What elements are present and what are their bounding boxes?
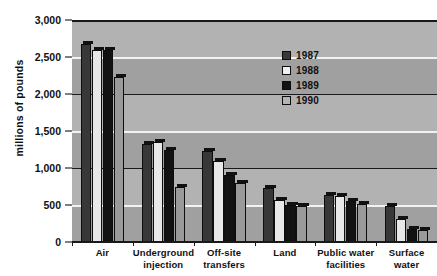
y-tick-mark (65, 131, 72, 132)
legend-item-1987: 1987 (282, 48, 356, 63)
bar-group (194, 20, 255, 242)
bar-group (133, 20, 194, 242)
y-tick-mark (65, 205, 72, 206)
y-tick-mark (65, 94, 72, 95)
bar (153, 142, 163, 242)
y-tick-label: 0 (55, 236, 61, 248)
bar (213, 161, 223, 242)
legend-swatch-icon (282, 66, 291, 75)
bar (164, 150, 174, 243)
bar (103, 50, 113, 242)
bar (285, 205, 295, 242)
x-category-label-line: water (376, 259, 437, 271)
bar-body (357, 204, 367, 242)
y-tick-label: 2,500 (35, 51, 61, 63)
y-axis-tick-labels: 05001,0001,5002,0002,5003,000 (0, 0, 72, 276)
bar-group (376, 20, 437, 242)
bar (396, 219, 406, 242)
y-tick-label: 500 (43, 199, 61, 211)
x-category-label-line: Land (255, 247, 316, 259)
y-tick-label: 1,000 (35, 162, 61, 174)
y-tick-label: 2,000 (35, 88, 61, 100)
legend-swatch-icon (282, 81, 291, 90)
x-category-label-line: facilities (315, 259, 376, 271)
x-axis-category-labels: AirUndergroundinjectionOff-sitetransfers… (72, 247, 437, 276)
x-category-label: Air (72, 247, 133, 259)
x-category-label-line: injection (133, 259, 194, 271)
x-tick-mark (194, 242, 195, 246)
x-tick-mark (133, 242, 134, 246)
y-tick-mark (65, 57, 72, 58)
bar (385, 206, 395, 242)
y-tick-label: 3,000 (35, 14, 61, 26)
legend-swatch-icon (282, 51, 291, 60)
bar-group (72, 20, 133, 242)
chart-legend: 1987198819891990 (282, 48, 356, 108)
legend-label: 1989 (296, 80, 319, 91)
bar-body (213, 161, 223, 242)
bar-body (153, 142, 163, 242)
bar-body (346, 201, 356, 242)
x-tick-mark (72, 242, 73, 246)
plot-area (72, 20, 437, 242)
bar-body (103, 50, 113, 242)
bar (346, 201, 356, 242)
bar (235, 183, 245, 242)
legend-label: 1990 (296, 95, 319, 106)
bar (296, 206, 306, 242)
bar (274, 200, 284, 242)
bar (81, 44, 91, 242)
legend-swatch-icon (282, 96, 291, 105)
bar-chart-figure: millions of pounds 05001,0001,5002,0002,… (0, 0, 437, 276)
bar (357, 204, 367, 242)
x-category-label: Off-sitetransfers (194, 247, 255, 270)
x-category-label: Undergroundinjection (133, 247, 194, 270)
x-category-label-line: Underground (133, 247, 194, 259)
legend-label: 1988 (296, 65, 319, 76)
bar-body (164, 150, 174, 243)
bar (324, 195, 334, 242)
bar-body (285, 205, 295, 242)
x-tick-mark (255, 242, 256, 246)
y-tick-mark (65, 168, 72, 169)
bar-series-container (72, 20, 437, 242)
bar-body (296, 206, 306, 242)
bar-body (81, 44, 91, 242)
y-tick-label: 1,500 (35, 125, 61, 137)
x-category-label-line: Air (72, 247, 133, 259)
bar-body (142, 144, 152, 242)
x-category-label-line: Public water (315, 247, 376, 259)
legend-item-1988: 1988 (282, 63, 356, 78)
bar (202, 151, 212, 242)
legend-item-1990: 1990 (282, 93, 356, 108)
bar-body (92, 50, 102, 242)
x-category-label: Public waterfacilities (315, 247, 376, 270)
bar (335, 196, 345, 242)
y-tick-mark (65, 242, 72, 243)
bar-body (274, 200, 284, 242)
x-category-label-line: Surface (376, 247, 437, 259)
x-category-label: Surfacewater (376, 247, 437, 270)
bar-body (235, 183, 245, 242)
bar-body (335, 196, 345, 242)
x-tick-mark (315, 242, 316, 246)
bar-body (224, 175, 234, 242)
bar-body (202, 151, 212, 242)
bar (114, 77, 124, 242)
bar-body (175, 187, 185, 242)
bar (92, 50, 102, 242)
bar-body (385, 206, 395, 242)
x-category-label-line: Off-site (194, 247, 255, 259)
bar-body (114, 77, 124, 242)
bar (224, 175, 234, 242)
x-category-label: Land (255, 247, 316, 259)
bar (142, 144, 152, 242)
y-tick-mark (65, 20, 72, 21)
legend-label: 1987 (296, 50, 319, 61)
bar-body (396, 219, 406, 242)
x-category-label-line: transfers (194, 259, 255, 271)
bar-body (263, 188, 273, 242)
bar-body (324, 195, 334, 242)
bar (175, 187, 185, 242)
bar (263, 188, 273, 242)
